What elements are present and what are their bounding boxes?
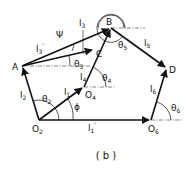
- label-l3: l3: [79, 18, 86, 29]
- label-D: D: [169, 65, 176, 75]
- label-l3-prime: l3': [36, 42, 44, 55]
- label-A: A: [12, 62, 19, 72]
- arc-theta6: [157, 102, 171, 120]
- label-O4: O4: [85, 90, 96, 101]
- linkage-diagram: A B C D O2 O4 O6 l1 l1' l2 l3 l3' l4 l5 …: [0, 0, 191, 176]
- label-theta3: θ3: [74, 59, 84, 70]
- label-l6: l6: [150, 84, 157, 95]
- arc-psi: [72, 45, 74, 51]
- link-l6: [151, 70, 166, 120]
- label-theta5: θ5: [118, 40, 128, 51]
- label-theta6: θ6: [171, 103, 181, 114]
- arc-phi: [68, 99, 73, 120]
- label-theta2: θ2: [42, 94, 52, 105]
- label-l1-prime: l1': [88, 121, 96, 134]
- label-psi: Ψ: [56, 30, 63, 40]
- label-l2: l2: [20, 90, 27, 101]
- label-phi: ϕ: [74, 102, 80, 112]
- figure-caption: ( b ): [96, 150, 117, 161]
- label-theta4: θ4: [102, 73, 112, 84]
- label-l5: l5: [144, 38, 151, 49]
- label-l1: l1: [64, 87, 71, 98]
- label-O6: O6: [148, 124, 159, 135]
- arc-theta3: [69, 56, 70, 66]
- label-C: C: [96, 49, 102, 59]
- label-B: B: [106, 17, 112, 27]
- label-l4: l4: [80, 72, 87, 83]
- label-O2: O2: [32, 124, 43, 135]
- angle-arcs: [33, 14, 171, 120]
